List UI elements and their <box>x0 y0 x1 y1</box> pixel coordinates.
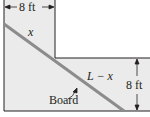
corridor-diagram: 8 ft 8 ft x L − x Board <box>0 0 150 117</box>
top-width-label: 8 ft <box>19 1 35 13</box>
right-height-label: 8 ft <box>126 79 142 91</box>
board-label: Board <box>49 94 78 106</box>
segment-l-minus-x-label: L − x <box>87 70 113 82</box>
segment-x-label: x <box>28 26 33 38</box>
